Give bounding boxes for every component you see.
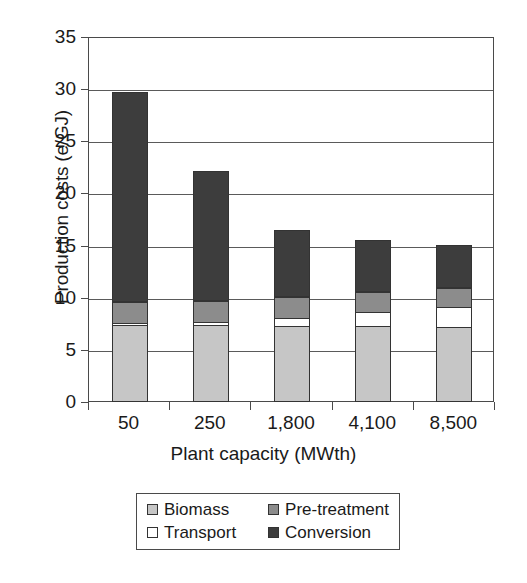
x-tick-label: 1,800 xyxy=(246,412,336,434)
plot-area xyxy=(88,37,494,402)
legend-swatch-icon xyxy=(147,504,158,515)
legend-swatch-icon xyxy=(268,527,279,538)
bar-segment-conversion[interactable] xyxy=(274,230,310,297)
x-tick-mark xyxy=(250,402,251,410)
x-tick-mark xyxy=(88,402,89,410)
x-tick-label: 50 xyxy=(84,412,174,434)
x-axis-title: Plant capacity (MWth) xyxy=(0,443,527,465)
y-tick-label: 35 xyxy=(30,27,76,46)
x-tick-mark xyxy=(169,402,170,410)
legend-swatch-icon xyxy=(147,527,158,538)
bar-segment-conversion[interactable] xyxy=(436,245,472,288)
x-axis: 502501,8004,1008,500 xyxy=(88,402,494,444)
bar-segment-biomass[interactable] xyxy=(436,327,472,402)
y-tick-mark xyxy=(81,193,88,194)
y-tick-label: 5 xyxy=(30,340,76,359)
bar-50[interactable] xyxy=(112,92,148,401)
bar-segment-conversion[interactable] xyxy=(193,171,229,301)
y-tick-label: 15 xyxy=(30,236,76,255)
y-tick-label: 0 xyxy=(30,392,76,411)
legend-item-pre-treatment[interactable]: Pre-treatment xyxy=(268,500,389,519)
bar-segment-pre-treatment[interactable] xyxy=(112,302,148,324)
y-tick-mark xyxy=(81,246,88,247)
y-tick-mark xyxy=(81,89,88,90)
bar-segment-biomass[interactable] xyxy=(112,325,148,402)
legend-label: Biomass xyxy=(164,500,229,519)
x-tick-label: 250 xyxy=(165,412,255,434)
chart-legend: BiomassPre-treatmentTransportConversion xyxy=(136,493,400,550)
legend-label: Conversion xyxy=(285,523,371,542)
bar-segment-biomass[interactable] xyxy=(193,325,229,402)
y-tick-mark xyxy=(81,350,88,351)
bar-8500[interactable] xyxy=(436,245,472,401)
y-tick-label: 10 xyxy=(30,288,76,307)
x-tick-label: 4,100 xyxy=(327,412,417,434)
legend-label: Transport xyxy=(164,523,236,542)
legend-item-transport[interactable]: Transport xyxy=(147,523,262,542)
x-tick-mark xyxy=(413,402,414,410)
bar-segment-transport[interactable] xyxy=(355,312,391,328)
y-tick-label: 20 xyxy=(30,183,76,202)
bar-segment-conversion[interactable] xyxy=(355,240,391,292)
bar-segment-pre-treatment[interactable] xyxy=(193,301,229,323)
gridline xyxy=(89,194,493,195)
bar-segment-biomass[interactable] xyxy=(274,326,310,402)
bar-4100[interactable] xyxy=(355,240,391,401)
bar-1800[interactable] xyxy=(274,230,310,401)
y-tick-mark xyxy=(81,37,88,38)
legend-item-biomass[interactable]: Biomass xyxy=(147,500,262,519)
y-tick-label: 25 xyxy=(30,131,76,150)
bar-segment-transport[interactable] xyxy=(436,307,472,328)
bar-segment-pre-treatment[interactable] xyxy=(355,292,391,313)
y-tick-mark xyxy=(81,298,88,299)
bar-segment-pre-treatment[interactable] xyxy=(274,297,310,319)
gridline xyxy=(89,142,493,143)
y-tick-mark xyxy=(81,402,88,403)
x-tick-mark xyxy=(332,402,333,410)
chart-figure: Production costs (e/GJ) 05101520253035 5… xyxy=(0,0,527,583)
bar-segment-pre-treatment[interactable] xyxy=(436,288,472,309)
x-tick-label: 8,500 xyxy=(408,412,498,434)
y-tick-mark xyxy=(81,141,88,142)
bar-250[interactable] xyxy=(193,171,229,401)
x-tick-mark xyxy=(494,402,495,410)
y-tick-label: 30 xyxy=(30,79,76,98)
bar-segment-conversion[interactable] xyxy=(112,92,148,303)
y-axis: 05101520253035 xyxy=(30,37,88,402)
bar-segment-biomass[interactable] xyxy=(355,326,391,402)
legend-swatch-icon xyxy=(268,504,279,515)
gridline xyxy=(89,90,493,91)
legend-label: Pre-treatment xyxy=(285,500,389,519)
legend-item-conversion[interactable]: Conversion xyxy=(268,523,389,542)
